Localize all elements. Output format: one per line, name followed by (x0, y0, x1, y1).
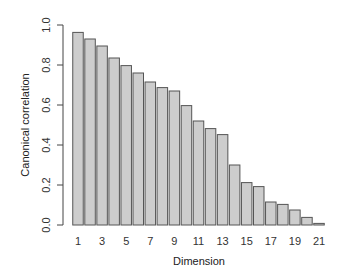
bar-dimension-16 (254, 187, 265, 225)
bar-dimension-2 (85, 39, 96, 225)
x-tick-label: 17 (265, 235, 277, 247)
x-tick-label: 15 (241, 235, 253, 247)
bar-dimension-1 (73, 32, 84, 225)
x-tick-label: 7 (147, 235, 153, 247)
bar-dimension-5 (121, 66, 132, 225)
bar-dimension-21 (314, 223, 325, 225)
x-tick-label: 5 (123, 235, 129, 247)
bar-dimension-12 (205, 129, 216, 225)
x-tick-label: 13 (216, 235, 228, 247)
x-axis-title: Dimension (173, 255, 225, 267)
bar-dimension-6 (133, 73, 144, 225)
y-tick-label: 0.0 (40, 217, 52, 232)
bar-dimension-14 (229, 165, 240, 225)
x-axis: 13579111315171921 (75, 235, 325, 247)
x-tick-label: 3 (99, 235, 105, 247)
y-tick-label: 1.0 (40, 17, 52, 32)
bar-dimension-8 (157, 88, 168, 225)
bar-dimension-4 (109, 58, 120, 225)
y-tick-label: 0.4 (40, 137, 52, 152)
bar-dimension-19 (290, 210, 301, 225)
bar-dimension-3 (97, 46, 108, 225)
x-tick-label: 11 (193, 235, 204, 247)
bar-chart: 0.00.20.40.60.81.0 13579111315171921 Dim… (0, 0, 344, 280)
x-tick-label: 21 (313, 235, 325, 247)
y-axis-title: Canonical correlation (19, 73, 31, 176)
bar-dimension-9 (169, 91, 180, 225)
bars-group (73, 32, 325, 225)
bar-dimension-18 (278, 204, 289, 225)
bar-dimension-13 (217, 135, 228, 225)
y-axis: 0.00.20.40.60.81.0 (40, 17, 63, 232)
bar-dimension-17 (266, 202, 277, 225)
bar-dimension-15 (241, 183, 252, 225)
x-tick-label: 19 (289, 235, 301, 247)
bar-dimension-10 (181, 106, 192, 225)
y-tick-label: 0.2 (40, 177, 52, 192)
bar-dimension-11 (193, 121, 204, 225)
y-tick-label: 0.6 (40, 97, 52, 112)
y-tick-label: 0.8 (40, 57, 52, 72)
x-tick-label: 1 (75, 235, 81, 247)
bar-dimension-20 (302, 217, 313, 225)
bar-dimension-7 (145, 82, 156, 225)
x-tick-label: 9 (171, 235, 177, 247)
